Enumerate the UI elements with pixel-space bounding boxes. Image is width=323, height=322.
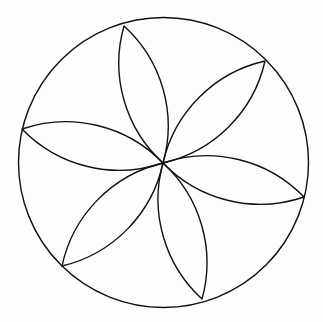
petal-5 (62, 163, 163, 266)
petals-group (22, 26, 304, 299)
petal-circle-diagram (0, 0, 323, 322)
petal-4 (158, 163, 207, 299)
petal-3 (163, 156, 304, 205)
petal-2 (163, 61, 265, 163)
petal-1 (119, 26, 168, 163)
petal-6 (22, 122, 163, 171)
diagram-canvas (0, 0, 323, 322)
